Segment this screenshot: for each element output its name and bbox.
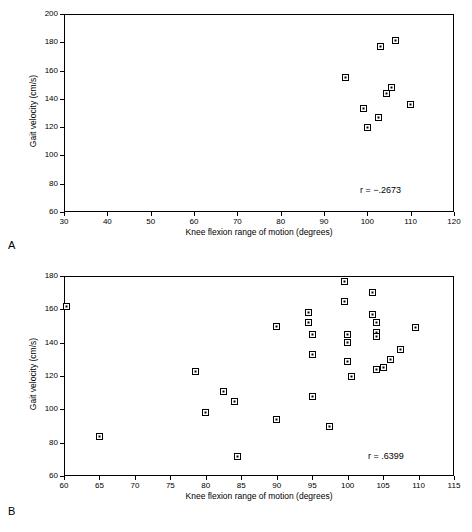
x-tick-label: 100 — [334, 481, 362, 490]
y-tick-label: 200 — [32, 9, 58, 18]
x-tick-label: 110 — [397, 217, 425, 226]
x-tick-label: 65 — [85, 481, 113, 490]
x-tick-label: 120 — [440, 217, 468, 226]
y-tick-mark — [60, 14, 64, 15]
data-point — [341, 298, 348, 305]
data-point — [309, 351, 316, 358]
x-tick-mark — [64, 212, 65, 216]
y-tick-mark — [60, 71, 64, 72]
data-point — [380, 364, 387, 371]
data-point — [63, 303, 70, 310]
data-point — [341, 278, 348, 285]
y-tick-label: 60 — [32, 471, 58, 480]
data-point — [305, 319, 312, 326]
data-point — [387, 356, 394, 363]
x-tick-label: 115 — [440, 481, 468, 490]
data-point — [234, 453, 241, 460]
x-tick-label: 85 — [227, 481, 255, 490]
y-tick-mark — [60, 184, 64, 185]
panel-letter-a: A — [8, 239, 15, 251]
data-point — [309, 393, 316, 400]
x-tick-mark — [64, 476, 65, 480]
x-tick-label: 95 — [298, 481, 326, 490]
x-tick-mark — [151, 212, 152, 216]
x-tick-label: 70 — [121, 481, 149, 490]
data-point — [344, 358, 351, 365]
x-tick-mark — [99, 476, 100, 480]
x-tick-mark — [206, 476, 207, 480]
data-point — [231, 398, 238, 405]
figure-container: Gait velocity (cm/s) Knee flexion range … — [0, 0, 472, 532]
data-point — [360, 105, 367, 112]
x-tick-mark — [383, 476, 384, 480]
y-tick-label: 120 — [32, 122, 58, 131]
x-tick-label: 50 — [137, 217, 165, 226]
panel-letter-b: B — [8, 505, 15, 517]
data-point — [364, 124, 371, 131]
x-tick-mark — [241, 476, 242, 480]
y-tick-label: 100 — [32, 404, 58, 413]
x-tick-mark — [170, 476, 171, 480]
y-tick-mark — [60, 212, 64, 213]
data-point — [192, 368, 199, 375]
data-point — [369, 289, 376, 296]
y-tick-label: 100 — [32, 150, 58, 159]
x-tick-label: 80 — [192, 481, 220, 490]
correlation-annotation-b: r = .6399 — [368, 451, 404, 461]
x-tick-label: 60 — [50, 481, 78, 490]
data-point — [342, 74, 349, 81]
y-tick-label: 180 — [32, 271, 58, 280]
y-tick-label: 180 — [32, 37, 58, 46]
data-point — [377, 43, 384, 50]
data-point — [373, 333, 380, 340]
x-tick-mark — [324, 212, 325, 216]
data-point — [373, 319, 380, 326]
y-tick-mark — [60, 155, 64, 156]
data-point — [220, 388, 227, 395]
y-tick-mark — [60, 127, 64, 128]
data-point — [202, 409, 209, 416]
x-tick-label: 105 — [369, 481, 397, 490]
data-point — [412, 324, 419, 331]
data-point — [375, 114, 382, 121]
y-tick-label: 160 — [32, 66, 58, 75]
x-tick-mark — [277, 476, 278, 480]
y-tick-mark — [60, 409, 64, 410]
y-tick-label: 140 — [32, 94, 58, 103]
y-tick-mark — [60, 343, 64, 344]
data-point — [392, 37, 399, 44]
data-point — [326, 423, 333, 430]
data-point — [273, 416, 280, 423]
panel-a: Gait velocity (cm/s) Knee flexion range … — [0, 0, 472, 262]
x-tick-mark — [107, 212, 108, 216]
data-point — [96, 433, 103, 440]
x-tick-mark — [411, 212, 412, 216]
data-point — [273, 323, 280, 330]
x-axis-label-a: Knee flexion range of motion (degrees) — [64, 227, 454, 237]
y-tick-mark — [60, 99, 64, 100]
x-tick-label: 40 — [93, 217, 121, 226]
x-tick-mark — [237, 212, 238, 216]
data-point — [407, 101, 414, 108]
data-point — [309, 331, 316, 338]
x-tick-mark — [367, 212, 368, 216]
x-tick-label: 90 — [310, 217, 338, 226]
x-tick-mark — [312, 476, 313, 480]
y-tick-mark — [60, 376, 64, 377]
y-tick-mark — [60, 42, 64, 43]
x-tick-mark — [348, 476, 349, 480]
data-point — [348, 373, 355, 380]
x-tick-label: 30 — [50, 217, 78, 226]
x-tick-label: 110 — [405, 481, 433, 490]
y-tick-mark — [60, 443, 64, 444]
x-tick-label: 100 — [353, 217, 381, 226]
x-tick-label: 70 — [223, 217, 251, 226]
y-tick-mark — [60, 476, 64, 477]
y-tick-label: 160 — [32, 304, 58, 313]
data-point — [344, 331, 351, 338]
x-tick-mark — [135, 476, 136, 480]
y-tick-label: 80 — [32, 438, 58, 447]
x-tick-label: 80 — [267, 217, 295, 226]
x-axis-label-b: Knee flexion range of motion (degrees) — [64, 491, 454, 501]
panel-b: Gait velocity (cm/s) Knee flexion range … — [0, 262, 472, 532]
